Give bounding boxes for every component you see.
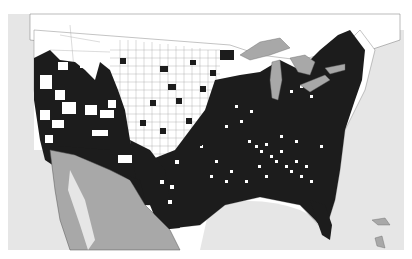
map-canvas bbox=[0, 0, 412, 259]
us-county-choropleth-map bbox=[0, 0, 412, 259]
